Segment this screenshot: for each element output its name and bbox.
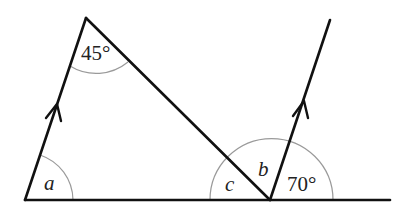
label-angle-a: a — [44, 171, 55, 195]
label-top-angle: 45° — [81, 41, 110, 65]
geometry-diagram: 45° a c b 70° — [0, 0, 398, 217]
triangle-right-side — [86, 18, 270, 200]
label-right-angle: 70° — [287, 172, 316, 196]
label-angle-b: b — [258, 157, 269, 181]
label-angle-c: c — [225, 172, 235, 196]
triangle-left-side — [25, 18, 86, 200]
